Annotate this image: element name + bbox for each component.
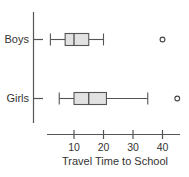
- x-tick-label: 30: [127, 141, 139, 153]
- x-tick-label: 20: [98, 141, 110, 153]
- outlier-point: [175, 96, 180, 101]
- boxplot-boys: [50, 34, 165, 46]
- outlier-point: [160, 37, 165, 42]
- iqr-box: [65, 34, 89, 46]
- category-label-boys: Boys: [5, 33, 30, 45]
- x-ticks-group: 10203040: [68, 130, 168, 153]
- category-boys: Boys: [5, 33, 43, 45]
- box-plot-chart: Boys Girls 10203040 Travel Time to Schoo…: [0, 0, 189, 177]
- boxplot-girls: [59, 93, 179, 105]
- category-girls: Girls: [6, 92, 43, 104]
- x-tick-label: 10: [68, 141, 80, 153]
- x-tick-label: 40: [157, 141, 169, 153]
- x-axis-label: Travel Time to School: [62, 155, 168, 167]
- iqr-box: [74, 93, 106, 105]
- boxes-group: [50, 34, 179, 105]
- category-label-girls: Girls: [6, 92, 29, 104]
